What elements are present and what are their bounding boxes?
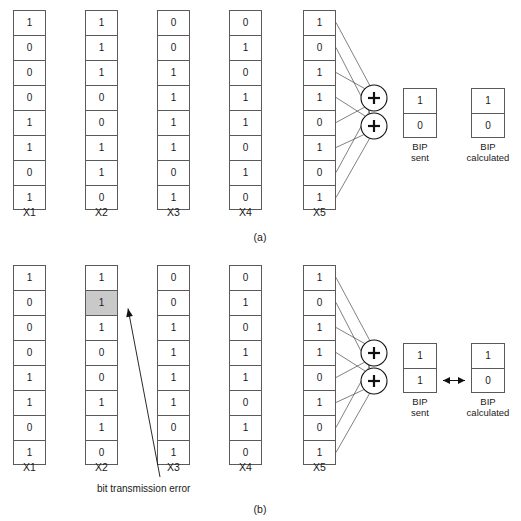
bip-calculated-box: 10 xyxy=(471,343,505,393)
bit-cell: 1 xyxy=(303,390,336,415)
column-label-x4: X4 xyxy=(229,206,262,218)
bip-sent-box: 10 xyxy=(403,88,437,138)
bit-cell: 1 xyxy=(85,315,118,340)
bit-cell: 0 xyxy=(303,290,336,315)
bip-sent-caption-line2: sent xyxy=(385,407,455,418)
xor-wire xyxy=(336,362,365,377)
bit-cell: 0 xyxy=(229,10,262,35)
bit-column-x1: 10001101 xyxy=(13,10,46,210)
xor-wire xyxy=(336,365,370,427)
bit-cell: 1 xyxy=(303,315,336,340)
bit-cell: 1 xyxy=(13,365,46,390)
xor-wire xyxy=(336,107,365,122)
bit-cell: 1 xyxy=(229,35,262,60)
bip-calculated-caption: BIPcalculated xyxy=(453,141,521,163)
bit-cell: 1 xyxy=(157,85,190,110)
bit-cell: 0 xyxy=(229,390,262,415)
bit-cell: 1 xyxy=(229,85,262,110)
column-label-x2: X2 xyxy=(85,461,118,473)
bit-cell-error: 1 xyxy=(85,290,118,315)
bit-cell: 0 xyxy=(13,340,46,365)
column-label-x2: X2 xyxy=(85,206,118,218)
bit-cell: 0 xyxy=(157,160,190,185)
column-label-x5: X5 xyxy=(303,461,336,473)
xor-wire xyxy=(336,48,370,114)
xor-wire xyxy=(336,389,364,402)
bit-cell: 1 xyxy=(157,60,190,85)
bit-cell: 1 xyxy=(85,10,118,35)
bip-calculated-caption-line1: BIP xyxy=(453,141,521,152)
bip-sent-box: 11 xyxy=(403,343,437,393)
bit-cell: 1 xyxy=(157,110,190,135)
bit-cell: 0 xyxy=(157,35,190,60)
bit-cell: 1 xyxy=(13,10,46,35)
bit-cell: 1 xyxy=(229,160,262,185)
bit-cell: 0 xyxy=(13,160,46,185)
xor-wire xyxy=(336,134,364,147)
bit-cell: 1 xyxy=(157,390,190,415)
bit-cell: 0 xyxy=(13,315,46,340)
bit-cell: 1 xyxy=(85,265,118,290)
bit-column-x1: 10001101 xyxy=(13,265,46,465)
bit-cell: 0 xyxy=(303,365,336,390)
bit-cell: 1 xyxy=(85,35,118,60)
column-label-x1: X1 xyxy=(13,461,46,473)
bit-cell: 1 xyxy=(157,135,190,160)
xor-wire xyxy=(336,303,370,369)
bit-cell: 1 xyxy=(303,60,336,85)
bit-cell: 1 xyxy=(303,340,336,365)
bit-cell: 1 xyxy=(13,265,46,290)
bit-cell: 1 xyxy=(85,390,118,415)
bip-calculated-bit: 0 xyxy=(471,368,505,393)
bit-cell: 0 xyxy=(303,35,336,60)
bit-cell: 1 xyxy=(13,135,46,160)
bit-cell: 1 xyxy=(229,290,262,315)
xor-wire xyxy=(336,278,370,341)
xor-wire xyxy=(336,23,370,86)
xor-node-1 xyxy=(361,340,387,366)
bip-sent-bit: 0 xyxy=(403,113,437,138)
xor-node-2 xyxy=(361,368,387,394)
xor-wire xyxy=(336,138,370,197)
xor-wire xyxy=(336,98,365,117)
bit-cell: 1 xyxy=(85,160,118,185)
panel-caption-a: (a) xyxy=(230,231,290,243)
bit-cell: 1 xyxy=(157,315,190,340)
bit-cell: 0 xyxy=(229,60,262,85)
bit-column-x2: 11100110 xyxy=(85,265,118,465)
bit-cell: 0 xyxy=(13,85,46,110)
bit-cell: 0 xyxy=(13,290,46,315)
xor-wire xyxy=(336,393,370,452)
bit-cell: 1 xyxy=(303,265,336,290)
bit-cell: 0 xyxy=(85,110,118,135)
xor-wire xyxy=(336,73,365,89)
column-label-x1: X1 xyxy=(13,206,46,218)
bip-sent-bit: 1 xyxy=(403,368,437,393)
bip-calculated-bit: 1 xyxy=(471,88,505,113)
bit-cell: 0 xyxy=(157,265,190,290)
bit-cell: 0 xyxy=(13,60,46,85)
bip-sent-caption-line2: sent xyxy=(385,152,455,163)
bit-cell: 0 xyxy=(13,415,46,440)
bit-column-x4: 01011010 xyxy=(229,265,262,465)
bip-calculated-bit: 1 xyxy=(471,343,505,368)
xor-node-1 xyxy=(361,85,387,111)
xor-node-2 xyxy=(361,113,387,139)
bit-cell: 1 xyxy=(13,390,46,415)
bit-cell: 0 xyxy=(13,35,46,60)
bit-column-x3: 00111101 xyxy=(157,265,190,465)
bit-cell: 1 xyxy=(13,110,46,135)
bit-cell: 1 xyxy=(303,135,336,160)
bit-cell: 1 xyxy=(157,340,190,365)
bit-cell: 1 xyxy=(85,60,118,85)
bit-cell: 0 xyxy=(303,415,336,440)
bip-calculated-caption-line2: calculated xyxy=(453,152,521,163)
bip-sent-caption: BIPsent xyxy=(385,141,455,163)
error-label: bit transmission error xyxy=(97,483,190,494)
bip-calculated-bit: 0 xyxy=(471,113,505,138)
bit-cell: 1 xyxy=(85,415,118,440)
bit-cell: 0 xyxy=(157,290,190,315)
bit-cell: 0 xyxy=(157,10,190,35)
xor-wire xyxy=(336,328,365,344)
bit-cell: 0 xyxy=(85,365,118,390)
